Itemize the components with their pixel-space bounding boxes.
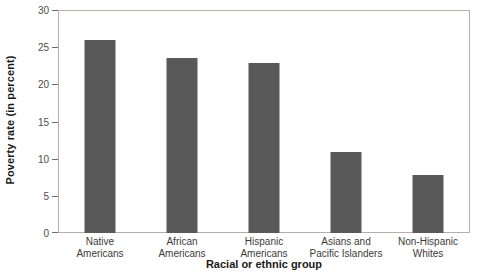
y-tick-label: 30 xyxy=(38,5,49,16)
bar-group[interactable] xyxy=(59,11,141,233)
bar-group[interactable] xyxy=(223,11,305,233)
x-axis-title: Racial or ethnic group xyxy=(58,258,470,270)
bar[interactable] xyxy=(249,63,280,233)
y-tick-label: 5 xyxy=(43,190,49,201)
bar-group[interactable] xyxy=(305,11,387,233)
bar-group[interactable] xyxy=(387,11,469,233)
bar[interactable] xyxy=(413,175,444,233)
x-tick-label-line: Non-Hispanic xyxy=(378,236,478,248)
bar-group[interactable] xyxy=(141,11,223,233)
bar[interactable] xyxy=(85,40,116,233)
y-tick-label: 10 xyxy=(38,153,49,164)
x-tick-label: Non-HispanicWhites xyxy=(378,236,478,260)
bar-chart-figure: Poverty rate (in percent) 051015202530 N… xyxy=(0,0,495,272)
y-tick-label: 15 xyxy=(38,116,49,127)
y-tick-label: 25 xyxy=(38,42,49,53)
bar[interactable] xyxy=(331,152,362,233)
y-axis-tick-labels: 051015202530 xyxy=(24,0,52,244)
y-axis-title: Poverty rate (in percent) xyxy=(0,0,20,240)
y-axis-title-text: Poverty rate (in percent) xyxy=(4,55,16,184)
y-tick-label: 20 xyxy=(38,79,49,90)
bars-layer xyxy=(59,11,469,233)
bar[interactable] xyxy=(167,58,198,233)
y-tick-label: 0 xyxy=(43,228,49,239)
